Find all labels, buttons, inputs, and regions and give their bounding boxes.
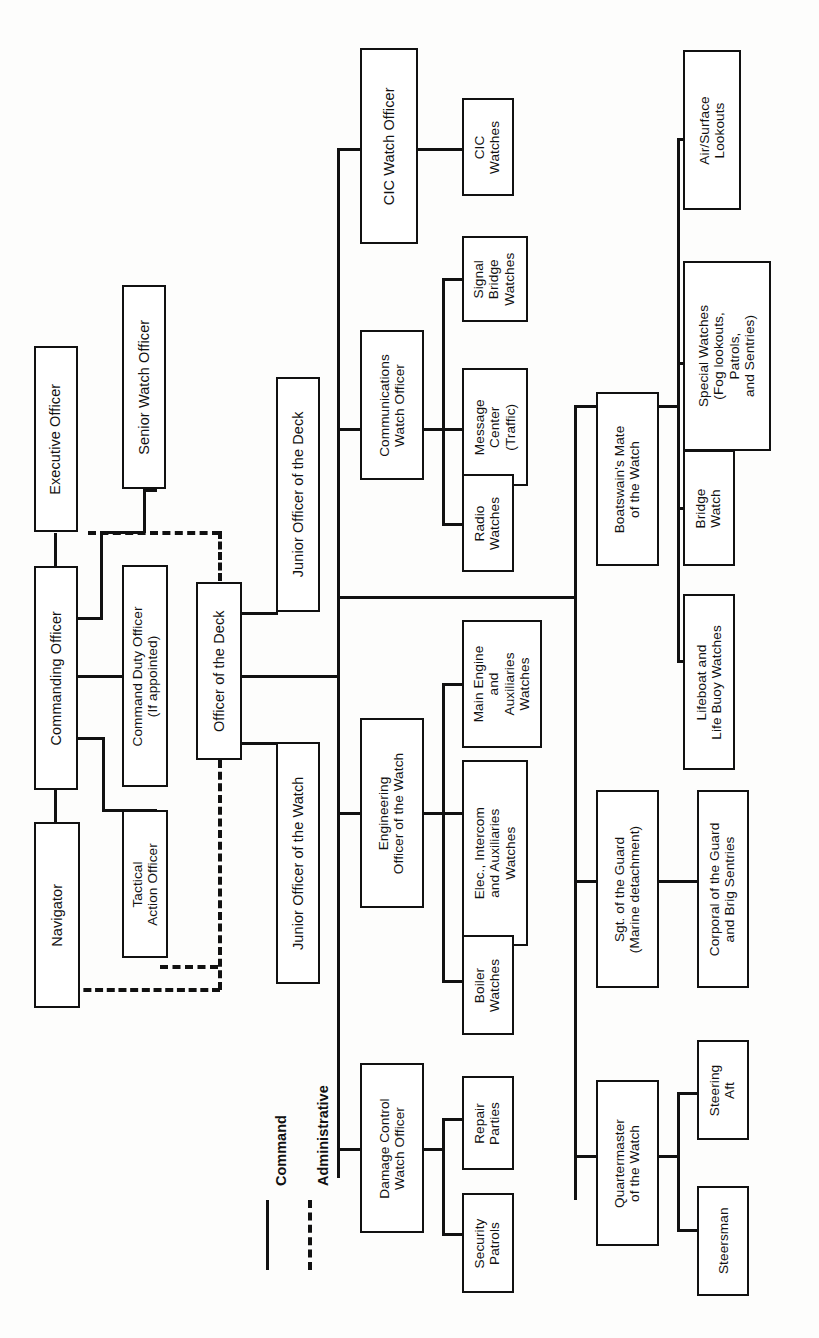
node-label: Commanding Officer xyxy=(48,611,65,746)
legend-administrative-swatch xyxy=(308,1200,312,1270)
node-senior-watch-officer[interactable]: Senior Watch Officer xyxy=(122,285,166,489)
node-label: Tactical Action Officer xyxy=(130,843,161,926)
node-label: Bridge Watch xyxy=(694,488,725,528)
edge-comm-signal xyxy=(442,278,462,281)
node-label: Junior Officer of the Watch xyxy=(290,776,307,950)
dc-child-rail xyxy=(442,1118,445,1236)
org-chart-canvas: Navigator Commanding Officer Executive O… xyxy=(0,0,819,1338)
node-repair-parties[interactable]: Repair Parties xyxy=(462,1076,514,1170)
node-elec-intercom-watches[interactable]: Elec., Intercom and Auxiliaries Watches xyxy=(462,760,528,946)
node-label: Navigator xyxy=(49,884,66,947)
node-navigator[interactable]: Navigator xyxy=(34,822,80,1008)
node-security-patrols[interactable]: Security Patrols xyxy=(462,1193,514,1293)
node-tactical-action-officer[interactable]: Tactical Action Officer xyxy=(122,810,168,958)
edge-trunk-comm xyxy=(337,428,361,431)
edge-co-tao-v xyxy=(102,737,105,812)
edge-eng-main xyxy=(442,683,462,686)
node-boiler-watches[interactable]: Boiler Watches xyxy=(462,935,514,1035)
node-sgt-of-the-guard[interactable]: Sgt. of the Guard (Marine detachment) xyxy=(596,790,659,988)
legend-command-label: Command xyxy=(273,1115,289,1186)
edge-trunk-lower-rail xyxy=(337,596,577,599)
node-label: Steersman xyxy=(715,1208,730,1275)
edge-co-cdo xyxy=(76,675,122,678)
edge-lower-bmow xyxy=(574,405,596,408)
node-commanding-officer[interactable]: Commanding Officer xyxy=(34,566,78,790)
edge-commanding-navigator xyxy=(54,790,57,822)
edge-eng-boiler xyxy=(442,980,462,983)
edge-trunk-eng xyxy=(337,812,361,815)
node-label: Main Engine and Auxiliaries Watches xyxy=(471,646,533,723)
node-boatswains-mate-of-the-watch[interactable]: Boatswain's Mate of the Watch xyxy=(596,392,659,566)
node-steersman[interactable]: Steersman xyxy=(697,1186,749,1296)
edge-cic-watches xyxy=(418,148,462,151)
edge-dc-security xyxy=(442,1233,462,1236)
node-command-duty-officer[interactable]: Command Duty Officer (If appointed) xyxy=(122,565,168,787)
node-label: Officer of the Deck xyxy=(211,610,228,732)
edge-ood-jood xyxy=(242,612,278,615)
edge-qmow-steersman xyxy=(677,1229,697,1232)
edge-sgt-corporal xyxy=(659,880,697,883)
edge-qmow-stub xyxy=(659,1155,679,1158)
edge-ood-joow xyxy=(242,742,278,745)
node-junior-officer-of-the-watch[interactable]: Junior Officer of the Watch xyxy=(276,742,320,984)
qmow-child-rail xyxy=(677,1092,680,1232)
node-special-watches[interactable]: Special Watches (Fog lookouts, Patrols, … xyxy=(683,261,771,451)
node-radio-watches[interactable]: Radio Watches xyxy=(462,474,514,572)
node-label: CIC Watch Officer xyxy=(381,87,398,205)
bmow-child-rail xyxy=(677,138,680,663)
node-executive-officer[interactable]: Executive Officer xyxy=(34,346,78,532)
node-label: Air/Surface Lookouts xyxy=(697,96,728,164)
node-label: Quartermaster of the Watch xyxy=(612,1119,643,1208)
node-damage-control-watch-officer[interactable]: Damage Control Watch Officer xyxy=(360,1063,424,1233)
edge-co-tao-h1 xyxy=(76,737,105,740)
node-steering-aft[interactable]: Steering Aft xyxy=(697,1040,749,1140)
node-label: Communications Watch Officer xyxy=(377,354,408,457)
node-junior-officer-of-the-deck[interactable]: Junior Officer of the Deck xyxy=(276,377,320,612)
node-label: Signal Bridge Watches xyxy=(472,252,518,305)
node-label: Boatswain's Mate of the Watch xyxy=(612,425,643,533)
edge-trunk-dc xyxy=(337,1148,361,1151)
edge-qmow-steering xyxy=(677,1092,697,1095)
node-label: Junior Officer of the Deck xyxy=(290,412,307,578)
edge-bmow-stub xyxy=(659,405,679,408)
node-label: Sgt. of the Guard (Marine detachment) xyxy=(612,825,643,952)
admin-edge-ood-down xyxy=(218,760,222,990)
node-main-engine-watches[interactable]: Main Engine and Auxiliaries Watches xyxy=(462,620,542,748)
edge-ood-trunk xyxy=(242,675,340,678)
lower-trunk-v xyxy=(574,405,577,1200)
eng-child-rail xyxy=(442,683,445,983)
edge-exec-senior-h2 xyxy=(143,489,157,492)
node-message-center[interactable]: Message Center (Traffic) xyxy=(462,368,528,486)
node-cic-watch-officer[interactable]: CIC Watch Officer xyxy=(360,48,418,244)
ood-trunk xyxy=(337,148,340,1178)
edge-eng-stub xyxy=(424,812,444,815)
node-label: Damage Control Watch Officer xyxy=(377,1098,408,1198)
node-label: Corporal of the Guard and Brig Sentries xyxy=(708,822,739,956)
node-label: Lifeboat and Life Buoy Watches xyxy=(694,625,725,740)
edge-eng-elec xyxy=(442,812,462,815)
node-label: Command Duty Officer (If appointed) xyxy=(130,606,161,746)
node-air-surface-lookouts[interactable]: Air/Surface Lookouts xyxy=(683,50,741,210)
node-label: Boiler Watches xyxy=(473,958,504,1011)
node-officer-of-the-deck[interactable]: Officer of the Deck xyxy=(196,582,242,760)
node-corporal-of-the-guard[interactable]: Corporal of the Guard and Brig Sentries xyxy=(697,790,749,988)
node-signal-bridge-watches[interactable]: Signal Bridge Watches xyxy=(462,236,528,322)
node-communications-watch-officer[interactable]: Communications Watch Officer xyxy=(360,330,424,480)
node-label: Repair Parties xyxy=(473,1101,504,1144)
node-bridge-watch[interactable]: Bridge Watch xyxy=(683,450,735,566)
node-label: Special Watches (Fog lookouts, Patrols, … xyxy=(696,305,758,407)
admin-edge-tao-h xyxy=(160,965,218,969)
node-lifeboat-life-buoy-watches[interactable]: Lifeboat and Life Buoy Watches xyxy=(683,594,735,770)
node-quartermaster-of-the-watch[interactable]: Quartermaster of the Watch xyxy=(596,1080,659,1246)
node-label: Elec., Intercom and Auxiliaries Watches xyxy=(472,807,518,899)
node-label: Senior Watch Officer xyxy=(136,320,153,455)
edge-exec-senior-v xyxy=(143,490,146,533)
edge-lower-sgt xyxy=(574,880,596,883)
node-engineering-officer-of-the-watch[interactable]: Engineering Officer of the Watch xyxy=(360,718,424,908)
admin-edge-senior-ood-v xyxy=(218,531,222,581)
edge-dc-repair xyxy=(442,1118,462,1121)
edge-comm-stub xyxy=(424,428,444,431)
comm-child-rail xyxy=(442,278,445,526)
legend-administrative-label: Administrative xyxy=(315,1085,331,1186)
node-cic-watches[interactable]: CIC Watches xyxy=(462,98,514,196)
